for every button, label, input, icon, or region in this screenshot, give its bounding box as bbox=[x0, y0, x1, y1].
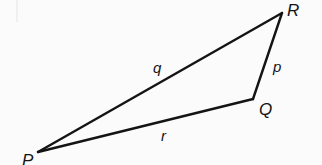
side-r-line bbox=[38, 99, 253, 152]
side-label-p: p bbox=[273, 59, 281, 74]
side-label-q: q bbox=[153, 60, 161, 75]
vertex-label-r: R bbox=[287, 2, 299, 19]
vertex-label-p: P bbox=[22, 152, 33, 165]
vertex-label-q: Q bbox=[259, 101, 272, 118]
geometry-figure: R Q P p q r bbox=[0, 0, 322, 165]
side-label-r: r bbox=[161, 128, 166, 143]
side-q-line bbox=[38, 13, 282, 152]
